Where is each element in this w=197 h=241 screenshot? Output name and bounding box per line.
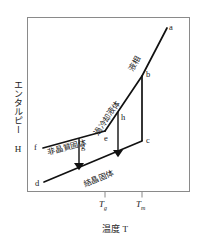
x-tick-label-tg: Tg — [99, 199, 107, 211]
point-label-c: c — [146, 135, 150, 145]
point-label-a: a — [169, 22, 173, 32]
point-label-b: b — [146, 69, 150, 79]
x-axis-label: 温度 T — [60, 222, 170, 235]
point-label-d: d — [35, 178, 39, 188]
point-label-e: e — [104, 133, 108, 143]
point-label-f: f — [34, 142, 37, 152]
point-label-h: h — [121, 112, 125, 122]
figure-container: エンタルピー H 温度 T Tg Tm a b c d e f g h 液相 過… — [0, 0, 197, 241]
y-axis-label: エンタルピー H — [2, 52, 22, 182]
x-tick-label-tm: Tm — [136, 199, 145, 211]
